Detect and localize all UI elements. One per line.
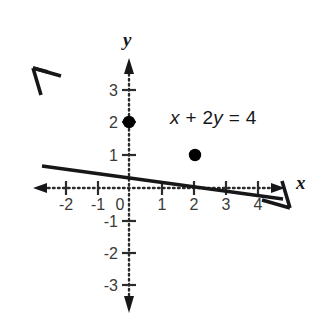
y-tick-label-1: 1 <box>102 148 118 164</box>
x-tick-label-4: 4 <box>250 197 266 213</box>
x-tick-label--1: -1 <box>88 197 108 213</box>
x-axis-left-arrow-icon <box>33 183 47 193</box>
x-axis-label: x <box>296 173 306 192</box>
y-axis-top-arrow-icon <box>124 58 134 74</box>
x-tick-label-0: 0 <box>112 197 128 213</box>
equation-label: x + 2y = 4 <box>170 108 257 127</box>
equation-equals: = <box>229 107 240 128</box>
x-tick-label-2: 2 <box>186 197 202 213</box>
y-tick-label--3: -3 <box>98 278 118 294</box>
y-axis-bottom-arrow-icon <box>124 296 134 313</box>
data-point-2-1 <box>189 149 201 161</box>
y-axis <box>122 58 136 313</box>
coordinate-plane <box>0 0 328 331</box>
y-axis-label: y <box>123 30 131 49</box>
x-tick-label-3: 3 <box>218 197 234 213</box>
equation-constant: 4 <box>246 107 257 128</box>
equation-plus: + <box>185 107 196 128</box>
equation-coefficient: 2 <box>202 107 213 128</box>
equation-var-x: x <box>170 107 180 128</box>
y-tick-label--2: -2 <box>98 246 118 262</box>
equation-var-y: y <box>213 107 223 128</box>
data-point-0-2 <box>123 116 135 128</box>
y-tick-label-2: 2 <box>102 115 118 131</box>
graph-figure: -2 -1 0 1 2 3 4 3 2 1 -1 -2 -3 y x x + 2… <box>0 0 328 331</box>
x-tick-label--2: -2 <box>56 197 76 213</box>
x-tick-label-1: 1 <box>154 197 170 213</box>
y-tick-label--1: -1 <box>98 214 118 230</box>
y-tick-label-3: 3 <box>102 83 118 99</box>
